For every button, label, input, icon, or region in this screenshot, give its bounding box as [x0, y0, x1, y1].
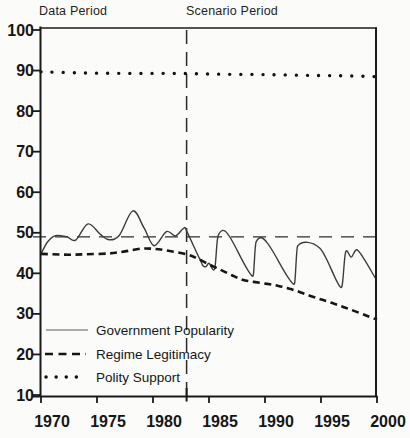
- series-line-solid-thin: [41, 211, 376, 288]
- y-tick-label: 10: [16, 387, 34, 404]
- series-line-dotted: [41, 72, 377, 77]
- y-tick-label: 100: [7, 22, 34, 39]
- x-tick-label: 1995: [314, 413, 350, 430]
- y-tick-label: 80: [16, 103, 34, 120]
- x-tick-label: 1990: [258, 413, 294, 430]
- legend: Government PopularityRegime LegitimacyPo…: [45, 323, 234, 385]
- plot-frame: [33, 27, 378, 397]
- x-tick-label: 2000: [370, 413, 406, 430]
- y-tick-label: 20: [16, 346, 34, 363]
- line-chart: 1009080706050403020101970197519801985199…: [0, 0, 410, 438]
- x-tick-label: 1970: [34, 413, 70, 430]
- y-tick-label: 90: [16, 62, 34, 79]
- legend-label: Government Popularity: [96, 323, 234, 338]
- chart-figure: Data Period Scenario Period 100908070605…: [0, 0, 410, 438]
- annotation-data-period: Data Period: [39, 4, 107, 18]
- x-tick-label: 1985: [202, 413, 238, 430]
- y-tick-label: 70: [16, 143, 34, 160]
- x-tick-label: 1975: [90, 413, 126, 430]
- data-series: [41, 72, 377, 320]
- x-tick-label: 1980: [146, 413, 182, 430]
- legend-label: Polity Support: [96, 370, 180, 385]
- legend-label: Regime Legitimacy: [96, 347, 211, 362]
- annotation-scenario-period: Scenario Period: [186, 4, 278, 18]
- y-tick-label: 50: [16, 224, 34, 241]
- axis-tick-labels: 1009080706050403020101970197519801985199…: [7, 22, 406, 431]
- y-tick-label: 30: [16, 305, 34, 322]
- y-tick-label: 60: [16, 184, 34, 201]
- y-tick-label: 40: [16, 265, 34, 282]
